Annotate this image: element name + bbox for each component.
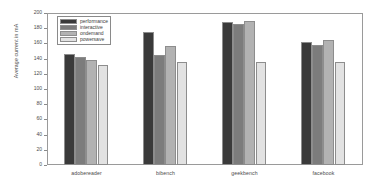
bar-performance-adobereader	[64, 54, 74, 165]
bar-group	[143, 13, 187, 165]
bar-group	[301, 13, 345, 165]
bar-group	[222, 13, 266, 165]
bar-chart-figure: Average current in mA 020406080100120140…	[0, 0, 376, 184]
legend-label-powersave: powersave	[80, 37, 104, 43]
bar-interactive-facebook	[312, 45, 322, 165]
chart-legend: performanceinteractiveondemandpowersave	[57, 16, 111, 45]
bar-ondemand-bibench	[165, 46, 175, 165]
legend-swatch-performance	[60, 19, 77, 24]
x-tick-label-adobereader: adobereader	[47, 170, 127, 176]
bar-performance-facebook	[301, 42, 311, 165]
bar-performance-geekbench	[222, 22, 232, 165]
y-tick-mark	[44, 165, 47, 166]
bar-ondemand-geekbench	[244, 21, 254, 165]
y-tick-label: 0	[39, 161, 42, 167]
bar-interactive-adobereader	[75, 57, 85, 165]
legend-item-powersave: powersave	[60, 37, 108, 43]
bar-powersave-adobereader	[98, 65, 108, 165]
bar-interactive-bibench	[154, 55, 164, 165]
y-tick-label: 60	[36, 115, 42, 121]
y-tick-label: 20	[36, 146, 42, 152]
y-tick-label: 200	[34, 9, 42, 15]
bar-interactive-geekbench	[233, 24, 243, 165]
x-tick-label-bibench: bibench	[126, 170, 206, 176]
y-tick-label: 120	[34, 70, 42, 76]
bar-powersave-bibench	[177, 62, 187, 165]
legend-swatch-powersave	[60, 37, 77, 42]
bar-powersave-facebook	[335, 62, 345, 165]
bar-powersave-geekbench	[256, 62, 266, 165]
legend-swatch-interactive	[60, 25, 77, 30]
bar-ondemand-facebook	[323, 40, 333, 165]
y-tick-label: 100	[34, 85, 42, 91]
legend-swatch-ondemand	[60, 31, 77, 36]
y-tick-label: 140	[34, 55, 42, 61]
x-tick-label-geekbench: geekbench	[205, 170, 285, 176]
y-tick-label: 160	[34, 39, 42, 45]
bar-ondemand-adobereader	[86, 60, 96, 165]
bar-performance-bibench	[143, 32, 153, 165]
y-tick-label: 180	[34, 24, 42, 30]
x-tick-label-facebook: facebook	[284, 170, 364, 176]
y-tick-label: 40	[36, 131, 42, 137]
y-tick-label: 80	[36, 100, 42, 106]
y-axis-title: Average current in mA	[13, 11, 19, 91]
